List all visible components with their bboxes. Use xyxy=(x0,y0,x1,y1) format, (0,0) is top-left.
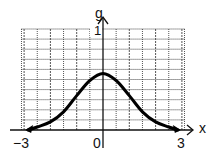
y-axis-label: g xyxy=(95,6,103,20)
curve-left-arrow-icon xyxy=(25,125,33,133)
y-tick-one: 1 xyxy=(94,24,101,37)
x-tick-pos3: 3 xyxy=(177,136,185,150)
x-tick-neg3: −3 xyxy=(13,136,29,150)
x-tick-zero: 0 xyxy=(93,136,101,150)
x-axis-label: x xyxy=(199,121,206,135)
curve-right-arrow-icon xyxy=(173,125,181,133)
bell-curve-chart xyxy=(0,0,211,155)
